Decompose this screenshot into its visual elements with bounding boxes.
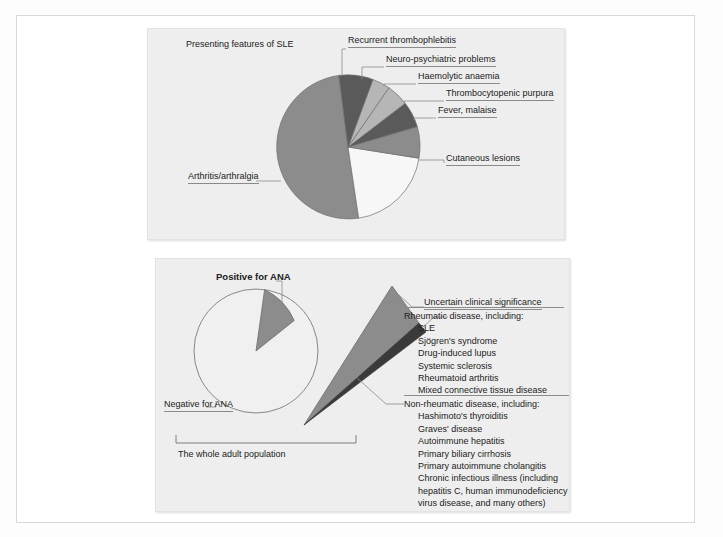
label-thrombocytopenic-purpura: Thrombocytopenic purpura bbox=[446, 88, 554, 101]
panel-top-title: Presenting features of SLE bbox=[186, 39, 294, 50]
label-whole-adult-population: The whole adult population bbox=[178, 449, 286, 460]
list-rheumatic-item-2: Drug-induced lupus bbox=[404, 347, 564, 359]
list-non-rheumatic-item-1: Graves' disease bbox=[404, 423, 569, 435]
leader-thrombocytopenic-purpura bbox=[404, 101, 444, 103]
panel-ana-population: Positive for ANA Uncertain clinical sign… bbox=[155, 258, 570, 512]
list-non-rheumatic-item-5: Chronic infectious illness (including bbox=[404, 472, 569, 484]
list-rheumatic-item-3: Systemic sclerosis bbox=[404, 360, 564, 372]
sle-pie-svg bbox=[148, 29, 566, 241]
leader-haemolytic-anaemia bbox=[384, 84, 416, 86]
list-rheumatic-disease: Rheumatic disease, including: SLE Sjögre… bbox=[404, 307, 564, 397]
list-non-rheumatic-head: Non-rheumatic disease, including: bbox=[404, 398, 569, 410]
leader-cutaneous-lesions bbox=[419, 160, 444, 163]
list-non-rheumatic-item-0: Hashimoto's thyroiditis bbox=[404, 410, 569, 422]
leader-fever-malaise bbox=[414, 118, 436, 120]
leader-non-rheumatic-disease bbox=[356, 377, 404, 404]
list-non-rheumatic-item-2: Autoimmune hepatitis bbox=[404, 435, 569, 447]
label-haemolytic-anaemia: Haemolytic anaemia bbox=[418, 71, 500, 84]
label-cutaneous-lesions: Cutaneous lesions bbox=[446, 153, 520, 166]
list-rheumatic-item-1: Sjögren's syndrome bbox=[404, 335, 564, 347]
label-negative-for-ana: Negative for ANA bbox=[164, 399, 233, 412]
list-non-rheumatic-item-6: hepatitis C, human immunodeficiency bbox=[404, 485, 569, 497]
list-non-rheumatic-item-7: virus disease, and many others) bbox=[404, 497, 569, 509]
figure-root: Presenting features of SLE Recurrent thr… bbox=[0, 0, 723, 537]
list-non-rheumatic-disease: Non-rheumatic disease, including: Hashim… bbox=[404, 395, 569, 510]
list-rheumatic-item-0: SLE bbox=[404, 322, 564, 334]
bracket-whole-adult-population bbox=[176, 435, 356, 443]
label-recurrent-thrombophlebitis: Recurrent thrombophlebitis bbox=[348, 35, 456, 48]
label-arthritis-arthralgia: Arthritis/arthralgia bbox=[188, 171, 259, 184]
panel-bottom-title: Positive for ANA bbox=[216, 271, 291, 282]
leader-recurrent-thrombophlebitis bbox=[342, 49, 346, 76]
label-fever-malaise: Fever, malaise bbox=[438, 105, 497, 118]
list-rheumatic-head: Rheumatic disease, including: bbox=[404, 310, 564, 322]
list-rheumatic-item-4: Rheumatoid arthritis bbox=[404, 372, 564, 384]
label-neuro-psychiatric-problems: Neuro-psychiatric problems bbox=[386, 54, 496, 67]
list-non-rheumatic-item-4: Primary autoimmune cholangitis bbox=[404, 460, 569, 472]
list-non-rheumatic-item-3: Primary biliary cirrhosis bbox=[404, 448, 569, 460]
panel-sle-presenting-features: Presenting features of SLE Recurrent thr… bbox=[147, 28, 565, 240]
slice-cutaneous-lesions bbox=[348, 147, 419, 218]
